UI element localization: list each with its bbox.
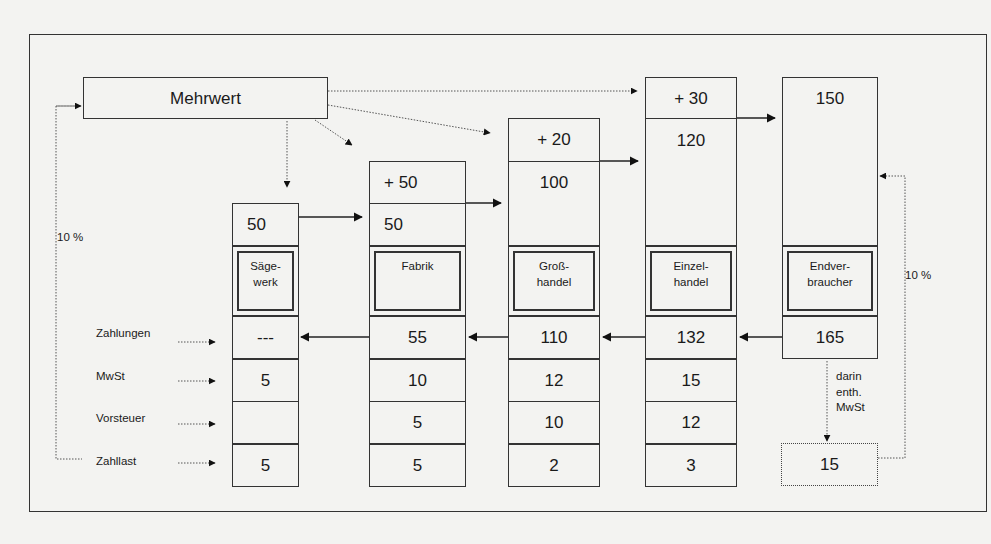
left-loop-line	[56, 106, 82, 459]
arrows-overlay	[0, 0, 991, 544]
arrow-mehrwert-to-fabrik	[315, 120, 352, 145]
arrow-mehrwert-to-grosshandel	[328, 105, 490, 133]
